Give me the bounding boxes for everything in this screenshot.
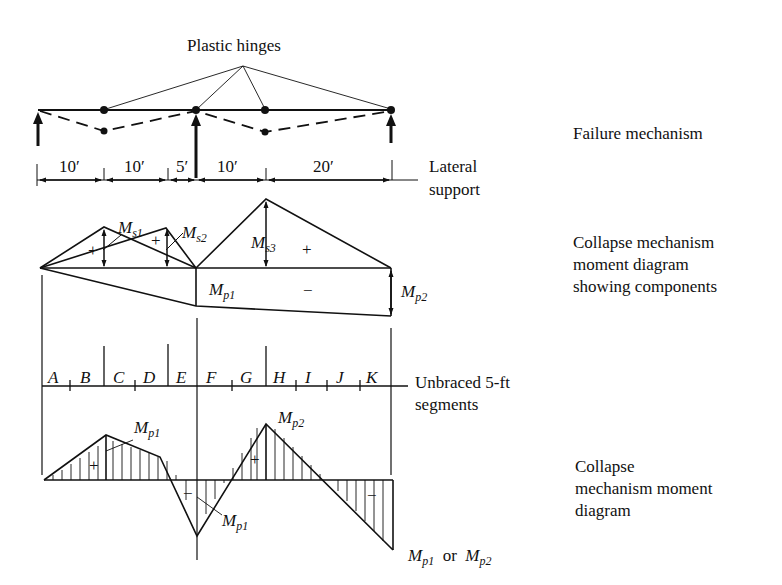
plastic-hinges-label: Plastic hinges bbox=[187, 36, 281, 56]
segment-k: K bbox=[366, 368, 377, 388]
components-label-2: moment diagram bbox=[573, 255, 689, 275]
segment-e: E bbox=[176, 368, 186, 388]
collapse-diagram-label-2: mechanism moment bbox=[575, 479, 712, 499]
collapse-moment-diagram bbox=[44, 424, 393, 550]
minus-sign: − bbox=[303, 281, 313, 301]
hatching bbox=[53, 428, 383, 541]
plus-sign: + bbox=[88, 241, 98, 261]
mp1-label: Mp1 bbox=[209, 280, 235, 305]
plastic-hinge bbox=[261, 106, 269, 114]
ms1-label: Ms1 bbox=[118, 218, 143, 243]
plus-sign: + bbox=[250, 450, 260, 470]
ms2-label: Ms2 bbox=[182, 223, 207, 248]
failure-mechanism bbox=[38, 66, 392, 132]
segment-c: C bbox=[113, 368, 124, 388]
mp-end-label: Mp1 or Mp2 bbox=[408, 546, 492, 571]
segment-a: A bbox=[48, 368, 58, 388]
guide-lines bbox=[42, 275, 391, 560]
components-label-1: Collapse mechanism bbox=[573, 233, 714, 253]
plus-sign: + bbox=[302, 240, 312, 260]
lateral-support-label-2: support bbox=[429, 180, 480, 200]
plastic-hinge bbox=[387, 106, 395, 114]
plastic-hinge bbox=[192, 106, 200, 114]
failure-mechanism-label: Failure mechanism bbox=[573, 124, 703, 144]
dim-5: 20′ bbox=[313, 157, 334, 177]
segment-d: D bbox=[143, 368, 155, 388]
plastic-hinge bbox=[100, 106, 108, 114]
plus-sign: + bbox=[151, 231, 161, 251]
reaction-arrows bbox=[33, 112, 396, 178]
unbraced-label-2: segments bbox=[415, 395, 478, 415]
deflected-hinge bbox=[101, 128, 108, 135]
components-label-3: showing components bbox=[573, 277, 717, 297]
dim-2: 10′ bbox=[124, 157, 145, 177]
segment-b: B bbox=[80, 368, 90, 388]
collapse-diagram-label-1: Collapse bbox=[575, 457, 635, 477]
dim-4: 10′ bbox=[217, 157, 238, 177]
segment-f: F bbox=[206, 368, 216, 388]
mp1-label-top: Mp1 bbox=[134, 418, 160, 443]
deflected-shape bbox=[40, 111, 391, 132]
segment-h: H bbox=[273, 368, 285, 388]
hinge-leaders bbox=[106, 66, 391, 109]
dim-3: 5′ bbox=[176, 157, 188, 177]
mp2-label: Mp2 bbox=[401, 282, 427, 307]
mp2-label-top: Mp2 bbox=[278, 408, 304, 433]
deflected-hinge bbox=[262, 129, 269, 136]
lateral-support-label-1: Lateral bbox=[429, 157, 477, 177]
unbraced-label-1: Unbraced 5-ft bbox=[415, 373, 510, 393]
segment-line bbox=[42, 344, 408, 391]
minus-sign: − bbox=[367, 486, 377, 506]
segment-i: I bbox=[305, 368, 311, 388]
moment-curve bbox=[44, 424, 393, 550]
dim-1: 10′ bbox=[59, 157, 80, 177]
plus-sign: + bbox=[89, 456, 99, 476]
segment-j: J bbox=[336, 368, 344, 388]
mp1-label-neg: Mp1 bbox=[222, 511, 248, 536]
segment-g: G bbox=[240, 368, 252, 388]
minus-sign: − bbox=[183, 484, 193, 504]
collapse-diagram-label-3: diagram bbox=[575, 501, 631, 521]
ms3-label: Ms3 bbox=[251, 233, 276, 258]
